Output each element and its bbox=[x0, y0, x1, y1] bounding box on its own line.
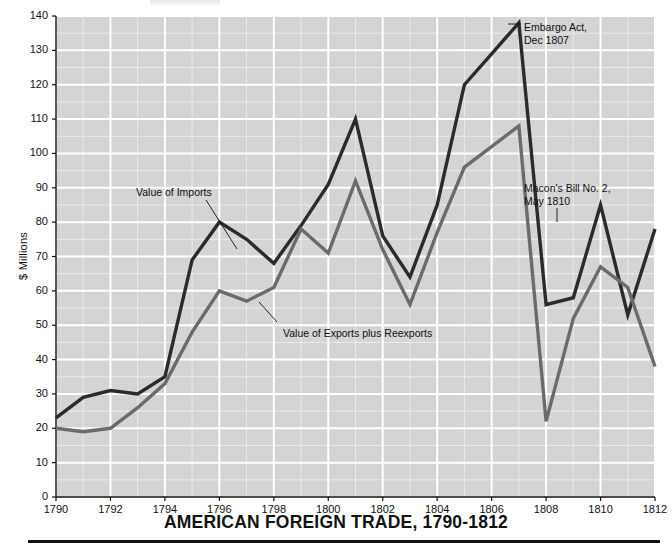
y-tick-label: 110 bbox=[14, 113, 48, 124]
annotation-imports: Value of Imports bbox=[136, 186, 212, 199]
y-tick-label: 20 bbox=[14, 422, 48, 433]
chart-plot-svg bbox=[0, 0, 672, 549]
annotation-macon-line2: May 1810 bbox=[524, 195, 570, 208]
annotation-embargo-line1: Embargo Act, bbox=[524, 21, 587, 34]
chart-figure: $ Millions 01020304050607080901001101201… bbox=[0, 0, 672, 549]
y-tick-label: 100 bbox=[14, 147, 48, 158]
y-tick-label: 130 bbox=[14, 44, 48, 55]
annotation-exports: Value of Exports plus Reexports bbox=[283, 327, 432, 340]
y-tick-label: 10 bbox=[14, 457, 48, 468]
annotation-macon-line1: Macon's Bill No. 2, bbox=[524, 182, 611, 195]
y-tick-label: 0 bbox=[14, 491, 48, 502]
y-tick-label: 80 bbox=[14, 216, 48, 227]
y-tick-label: 30 bbox=[14, 388, 48, 399]
y-tick-label: 90 bbox=[14, 182, 48, 193]
y-tick-label: 40 bbox=[14, 354, 48, 365]
y-tick-label: 140 bbox=[14, 10, 48, 21]
y-tick-label: 120 bbox=[14, 79, 48, 90]
y-tick-label: 50 bbox=[14, 319, 48, 330]
y-tick-label: 70 bbox=[14, 251, 48, 262]
annotation-embargo-line2: Dec 1807 bbox=[524, 34, 569, 47]
y-tick-label: 60 bbox=[14, 285, 48, 296]
chart-title: AMERICAN FOREIGN TRADE, 1790-1812 bbox=[0, 512, 672, 533]
bottom-rule bbox=[28, 540, 660, 543]
